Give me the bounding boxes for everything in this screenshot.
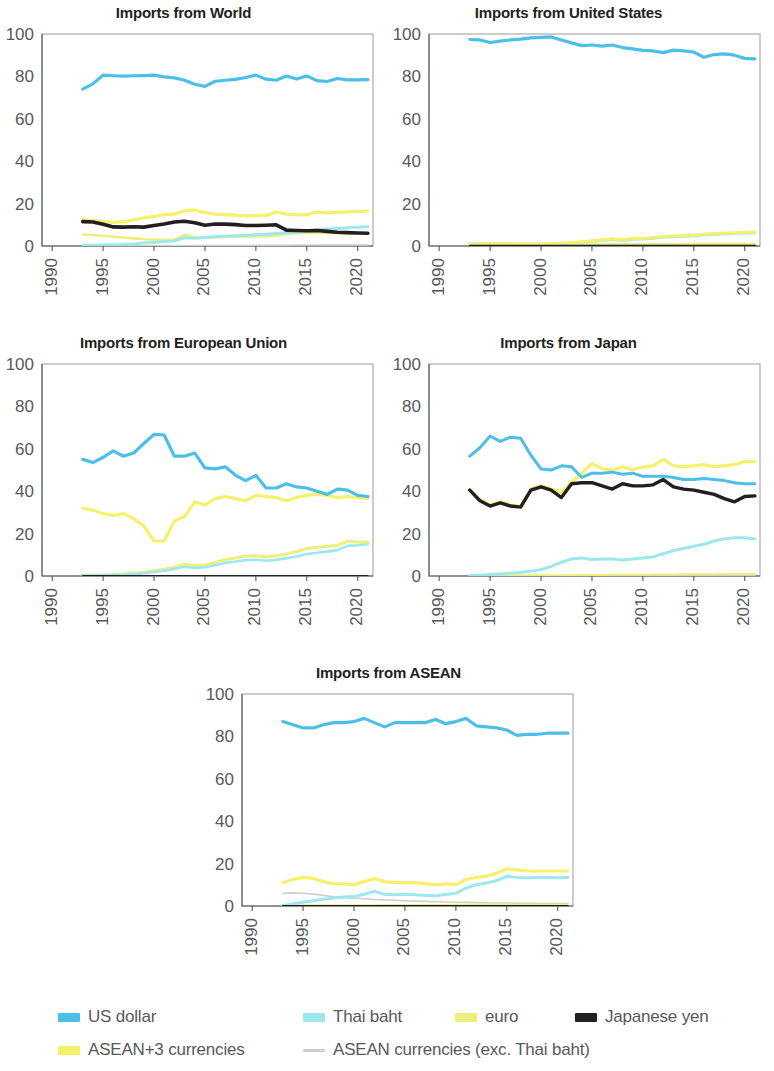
y-axis-tick-label: 80 <box>15 67 34 86</box>
series-line <box>283 718 568 735</box>
panel-title: Imports from European Union <box>0 334 377 351</box>
legend-swatch-euro <box>455 1013 477 1022</box>
y-axis-tick-label: 40 <box>402 482 421 501</box>
legend-label: ASEAN currencies (exc. Thai baht) <box>333 1040 590 1060</box>
panel-plot-svg: 0204060801001990199520002005201020152020 <box>200 660 587 976</box>
y-axis-tick-label: 100 <box>6 25 34 44</box>
x-axis-tick-label: 2000 <box>144 258 163 296</box>
x-axis-tick-label: 1995 <box>480 258 499 296</box>
y-axis-tick-label: 20 <box>215 855 234 874</box>
y-axis-tick-label: 80 <box>402 397 421 416</box>
x-axis-tick-label: 2015 <box>683 588 702 626</box>
axis-lines <box>429 34 760 246</box>
y-axis-tick-label: 0 <box>25 237 34 256</box>
y-axis-tick-label: 40 <box>15 482 34 501</box>
series-group <box>470 436 755 576</box>
legend-item-asean-currencies-exc-thai-baht: ASEAN currencies (exc. Thai baht) <box>303 1040 590 1060</box>
multi-panel-chart-figure: Imports from World 020406080100199019952… <box>0 0 774 1071</box>
legend-row-2b: ASEAN currencies (exc. Thai baht) <box>303 1040 590 1060</box>
x-axis-tick-label: 2010 <box>245 258 264 296</box>
legend-item-asean-plus-3-currencies: ASEAN+3 currencies <box>58 1040 245 1060</box>
y-axis-tick-label: 0 <box>412 567 421 586</box>
series-line <box>83 434 368 496</box>
panel-imports-from-united-states: Imports from United States 0204060801001… <box>387 0 774 320</box>
series-line <box>470 436 755 484</box>
plot-frame <box>429 34 760 246</box>
series-line <box>83 210 368 222</box>
panel-title: Imports from United States <box>375 4 762 21</box>
y-axis-tick-label: 40 <box>15 152 34 171</box>
y-axis-tick-label: 60 <box>215 770 234 789</box>
x-axis-tick-label: 2000 <box>531 588 550 626</box>
x-axis-tick-label: 1990 <box>429 258 448 296</box>
legend-label: ASEAN+3 currencies <box>88 1040 245 1060</box>
panel-imports-from-european-union: Imports from European Union 020406080100… <box>0 330 387 650</box>
panel-plot-svg: 0204060801001990199520002005201020152020 <box>0 0 387 316</box>
series-line <box>470 37 755 59</box>
panel-imports-from-asean: Imports from ASEAN 020406080100199019952… <box>200 660 587 980</box>
y-axis-tick-label: 60 <box>402 440 421 459</box>
y-axis-tick-label: 100 <box>393 355 421 374</box>
y-axis-tick-label: 60 <box>15 440 34 459</box>
series-group <box>283 718 568 905</box>
y-axis-tick-label: 0 <box>225 897 234 916</box>
plot-frame <box>42 364 373 576</box>
y-axis-tick-label: 40 <box>402 152 421 171</box>
y-axis-tick-label: 0 <box>412 237 421 256</box>
x-axis-tick-label: 1990 <box>242 918 261 956</box>
x-axis-tick-label: 1995 <box>93 258 112 296</box>
series-line <box>470 538 755 576</box>
panel-title: Imports from World <box>0 4 377 21</box>
legend-item-us-dollar: US dollar <box>58 1007 156 1027</box>
y-axis-tick-label: 100 <box>206 685 234 704</box>
legend-item-thai-baht: Thai baht <box>303 1007 402 1027</box>
panel-imports-from-japan: Imports from Japan 020406080100199019952… <box>387 330 774 650</box>
legend-item-euro: euro <box>455 1007 518 1027</box>
y-axis-tick-label: 0 <box>25 567 34 586</box>
x-axis-tick-label: 1995 <box>480 588 499 626</box>
x-axis-tick-label: 1990 <box>42 258 61 296</box>
series-line <box>83 541 368 575</box>
series-line <box>83 221 368 233</box>
panel-title: Imports from ASEAN <box>195 664 582 681</box>
x-axis-tick-label: 2020 <box>734 258 753 296</box>
x-axis-tick-label: 2005 <box>581 588 600 626</box>
y-axis-tick-label: 20 <box>15 525 34 544</box>
x-axis-tick-label: 2000 <box>531 258 550 296</box>
legend-swatch-thai-baht <box>303 1013 325 1022</box>
y-axis-tick-label: 100 <box>393 25 421 44</box>
y-axis-tick-label: 60 <box>402 110 421 129</box>
x-axis-tick-label: 1990 <box>429 588 448 626</box>
legend-row-2: ASEAN+3 currencies <box>58 1040 245 1060</box>
legend-row-1c: euro <box>455 1007 518 1027</box>
x-axis-tick-label: 1995 <box>293 918 312 956</box>
legend-item-japanese-yen: Japanese yen <box>575 1007 708 1027</box>
x-axis-tick-label: 2015 <box>496 918 515 956</box>
panel-plot-svg: 0204060801001990199520002005201020152020 <box>387 0 774 316</box>
legend-swatch-asean-currencies <box>303 1049 325 1052</box>
x-axis-tick-label: 2000 <box>344 918 363 956</box>
legend-label: euro <box>485 1007 518 1027</box>
x-axis-tick-label: 1995 <box>93 588 112 626</box>
legend-row-1b: Thai baht <box>303 1007 402 1027</box>
x-axis-tick-label: 2015 <box>296 258 315 296</box>
legend-row-1: US dollar <box>58 1007 156 1027</box>
y-axis-tick-label: 80 <box>402 67 421 86</box>
x-axis-tick-label: 2010 <box>445 918 464 956</box>
axis-lines <box>42 364 373 576</box>
x-axis-tick-label: 2020 <box>547 918 566 956</box>
y-axis-tick-label: 80 <box>215 727 234 746</box>
y-axis-tick-label: 20 <box>15 195 34 214</box>
legend-swatch-asean-plus-3 <box>58 1046 80 1055</box>
x-axis-tick-label: 1990 <box>42 588 61 626</box>
series-line <box>470 459 755 506</box>
x-axis-tick-label: 2020 <box>734 588 753 626</box>
panel-plot-svg: 0204060801001990199520002005201020152020 <box>387 330 774 646</box>
series-group <box>470 37 755 246</box>
series-group <box>83 75 368 246</box>
x-axis-tick-label: 2005 <box>394 918 413 956</box>
series-line <box>83 494 368 541</box>
panel-title: Imports from Japan <box>375 334 762 351</box>
y-axis-tick-label: 40 <box>215 812 234 831</box>
legend-label: US dollar <box>88 1007 156 1027</box>
